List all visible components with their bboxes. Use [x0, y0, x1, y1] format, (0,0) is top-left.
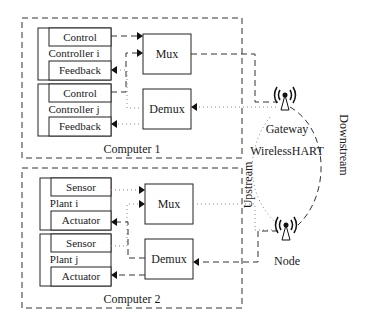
wirelesshart-label: WirelessHART — [250, 144, 324, 158]
controller-j: Control Controller j Feedback — [38, 84, 111, 136]
controller-i-label: Controller i — [48, 47, 99, 59]
sensor-label-j: Sensor — [66, 237, 96, 249]
feedback-label-j: Feedback — [59, 120, 102, 132]
control-label-j: Control — [63, 87, 97, 99]
demux-label-2: Demux — [151, 252, 186, 266]
computer1-label: Computer 1 — [104, 142, 161, 156]
node-antenna-icon — [276, 217, 297, 240]
plant-j: Sensor Plant j Actuator — [40, 234, 111, 286]
sensor-label-i: Sensor — [66, 181, 96, 193]
network-control-diagram: Computer 1 Control Controller i Feedback… — [0, 0, 366, 325]
mux-label-1: Mux — [156, 47, 179, 61]
sensor-j-to-mux-line — [111, 204, 139, 246]
controller-j-label: Controller j — [48, 103, 99, 115]
arrow-head-icon — [193, 258, 199, 266]
arrow-head-icon — [111, 120, 117, 128]
demux-to-feedback-i-line — [117, 70, 143, 108]
gateway-label: Gateway — [266, 122, 309, 136]
arrow-head-icon — [111, 218, 117, 226]
computer2-label: Computer 2 — [104, 292, 161, 306]
gateway-antenna-icon — [275, 87, 296, 110]
arrow-head-icon — [139, 200, 145, 208]
plant-j-label: Plant j — [50, 253, 78, 265]
mux2-to-node-line — [193, 204, 278, 230]
controller-i: Control Controller i Feedback — [38, 28, 111, 80]
arrow-head-icon — [111, 66, 117, 74]
arrow-head-icon — [111, 271, 117, 279]
feedback-label-i: Feedback — [59, 64, 102, 76]
mux-label-2: Mux — [158, 197, 181, 211]
downstream-label: Downstream — [337, 114, 351, 176]
node-label: Node — [274, 254, 300, 268]
diagram-canvas: Computer 1 Control Controller i Feedback… — [0, 0, 366, 325]
arrow-head-icon — [137, 49, 143, 57]
arrow-head-icon — [137, 32, 143, 40]
demux-label-1: Demux — [149, 102, 184, 116]
mux1-to-gateway-line — [191, 54, 278, 102]
arrow-head-icon — [139, 186, 145, 194]
control-label-i: Control — [63, 31, 97, 43]
node-to-demux2-line — [199, 231, 278, 262]
plant-i: Sensor Plant i Actuator — [40, 178, 111, 230]
plant-i-label: Plant i — [50, 197, 78, 209]
demux-to-actuator-i-line — [117, 222, 145, 258]
arrow-head-icon — [191, 103, 197, 111]
actuator-label-j: Actuator — [62, 270, 101, 282]
actuator-label-i: Actuator — [62, 214, 101, 226]
upstream-label: Upstream — [241, 161, 255, 208]
